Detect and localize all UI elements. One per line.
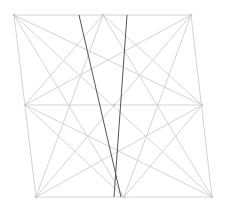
light-line <box>25 15 103 105</box>
node-point <box>211 196 214 199</box>
node-point <box>102 14 105 17</box>
node-point <box>24 104 27 107</box>
light-line <box>36 15 103 197</box>
geometric-line-diagram <box>0 0 226 210</box>
dark-line <box>114 15 127 197</box>
light-line <box>25 15 191 105</box>
light-line <box>124 105 202 197</box>
node-point <box>201 104 204 107</box>
diagram-svg <box>0 0 226 210</box>
light-lines-group <box>14 15 212 197</box>
light-line <box>103 15 202 105</box>
node-point <box>35 196 38 199</box>
light-line <box>25 105 124 197</box>
node-point <box>190 14 193 17</box>
node-point <box>123 196 126 199</box>
node-point <box>113 104 116 107</box>
node-point <box>13 14 16 17</box>
